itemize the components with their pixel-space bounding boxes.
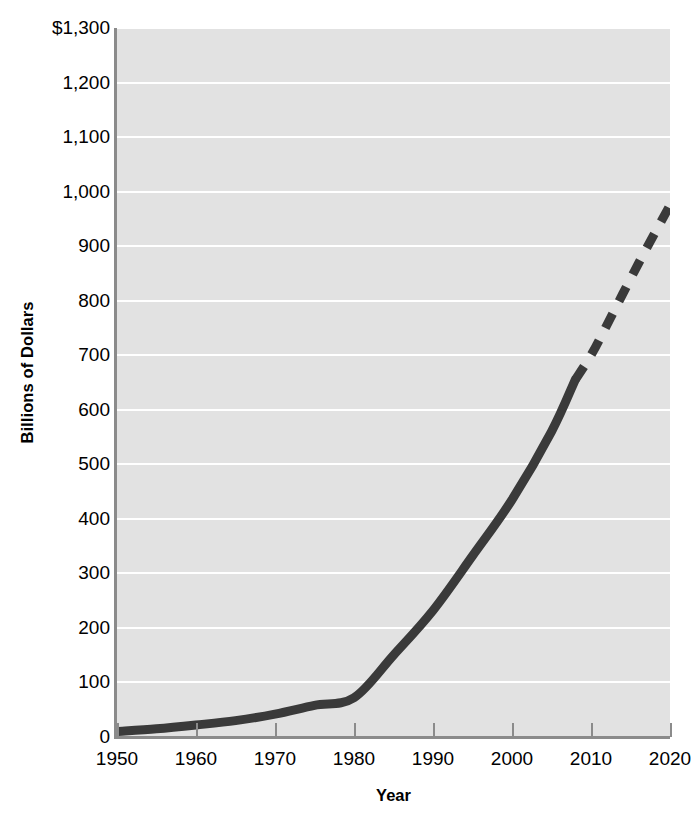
- y-axis-tick-label: $1,300: [40, 17, 110, 39]
- x-axis-tick: [433, 723, 435, 737]
- x-axis-tick: [512, 723, 514, 737]
- x-axis-tick-label: 1950: [72, 748, 162, 770]
- x-axis-tick-label: 1970: [230, 748, 320, 770]
- x-axis-tick-label: 2010: [546, 748, 636, 770]
- y-axis-title: Billions of Dollars: [14, 0, 40, 745]
- y-axis-title-text: Billions of Dollars: [18, 301, 37, 443]
- y-axis-tick-label: 300: [40, 562, 110, 584]
- y-axis-tick-label: 500: [40, 453, 110, 475]
- y-axis-tick-label: 1,200: [40, 72, 110, 94]
- series-line-actual: [117, 380, 575, 732]
- y-axis-tick-label: 700: [40, 344, 110, 366]
- x-axis-tick: [670, 723, 672, 737]
- x-axis-title: Year: [117, 786, 670, 805]
- y-axis-tick-label: 600: [40, 399, 110, 421]
- x-axis-tick-label: 2020: [625, 748, 697, 770]
- data-series-layer: [117, 28, 670, 737]
- x-axis-tick-label: 1990: [388, 748, 478, 770]
- y-axis-tick-labels: $1,3001,2001,1001,0009008007006005004003…: [40, 0, 110, 830]
- y-axis-tick-label: 100: [40, 671, 110, 693]
- y-axis-tick-label: 1,100: [40, 126, 110, 148]
- x-axis-tick-label: 1980: [309, 748, 399, 770]
- x-axis-tick-label: 1960: [151, 748, 241, 770]
- plot-area: [117, 28, 670, 737]
- y-axis-line: [114, 28, 117, 739]
- y-axis-tick-label: 200: [40, 617, 110, 639]
- y-axis-tick-label: 900: [40, 235, 110, 257]
- x-axis-tick-label: 2000: [467, 748, 557, 770]
- y-axis-tick-label: 400: [40, 508, 110, 530]
- y-axis-tick-label: 800: [40, 290, 110, 312]
- x-axis-tick: [196, 723, 198, 737]
- x-axis-tick: [354, 723, 356, 737]
- series-line-projected: [575, 205, 670, 380]
- x-axis-tick: [117, 723, 119, 737]
- y-axis-tick-label: 1,000: [40, 181, 110, 203]
- line-chart: Billions of Dollars $1,3001,2001,1001,00…: [0, 0, 697, 830]
- x-axis-tick: [275, 723, 277, 737]
- y-axis-tick-label: 0: [40, 726, 110, 748]
- x-axis-tick: [591, 723, 593, 737]
